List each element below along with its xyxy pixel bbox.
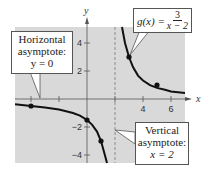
tick-label-x4: 4 xyxy=(140,104,145,114)
point-3 xyxy=(126,54,131,59)
tick-label-yn2: −2 xyxy=(72,122,82,132)
tick-label-y2: 2 xyxy=(77,66,82,76)
horizontal-asymptote-callout: Horizontal asymptote: y = 0 xyxy=(11,31,73,74)
point-0 xyxy=(84,117,89,122)
x-axis-arrow-icon xyxy=(185,97,192,101)
y-axis-arrow-icon xyxy=(85,17,89,24)
tick-label-x6: 6 xyxy=(168,104,173,114)
x-axis-label: x xyxy=(195,93,201,104)
tick-label-yn4: −4 xyxy=(72,150,82,160)
vertical-asymptote-callout: Vertical asymptote: x = 2 xyxy=(135,122,189,165)
y-axis-label: y xyxy=(83,5,89,16)
point-5 xyxy=(154,82,159,87)
point-1 xyxy=(98,138,103,143)
function-callout: g(x) = 3 x − 2 xyxy=(133,8,192,33)
point-neg4 xyxy=(28,103,33,108)
tick-label-y4: 4 xyxy=(77,38,82,48)
